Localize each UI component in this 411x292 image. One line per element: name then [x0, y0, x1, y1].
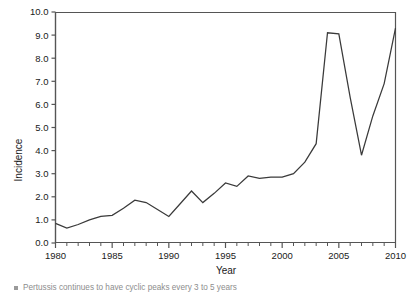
plot-frame — [56, 12, 397, 243]
y-axis-tick-labels: 0.01.02.03.04.05.06.07.08.09.010.0 — [30, 6, 49, 248]
x-tick-label: 1995 — [215, 250, 236, 261]
caption-label: Pertussis continues to have cyclic peaks… — [23, 283, 237, 292]
bullet-icon — [14, 286, 18, 290]
x-tick-label: 1980 — [45, 250, 66, 261]
y-tick-label: 7.0 — [35, 76, 48, 87]
y-tick-label: 8.0 — [35, 53, 48, 64]
y-tick-label: 1.0 — [35, 214, 48, 225]
figure-caption: Pertussis continues to have cyclic peaks… — [14, 283, 237, 292]
x-axis-major-ticks — [56, 243, 396, 248]
x-axis-title: Year — [216, 265, 237, 276]
x-tick-label: 1985 — [102, 250, 123, 261]
y-tick-label: 10.0 — [30, 6, 49, 17]
y-tick-label: 9.0 — [35, 30, 48, 41]
y-tick-label: 0.0 — [35, 237, 48, 248]
x-tick-label: 2005 — [328, 250, 349, 261]
y-tick-label: 4.0 — [35, 145, 48, 156]
x-axis-tick-labels: 1980198519901995200020052010 — [45, 250, 406, 261]
x-tick-label: 2010 — [385, 250, 406, 261]
y-tick-label: 3.0 — [35, 168, 48, 179]
x-tick-label: 1990 — [158, 250, 179, 261]
x-tick-label: 2000 — [272, 250, 293, 261]
y-axis-title: Incidence — [13, 138, 24, 181]
incidence-line-chart: 0.01.02.03.04.05.06.07.08.09.010.0 19801… — [0, 0, 411, 292]
chart-figure: 0.01.02.03.04.05.06.07.08.09.010.0 19801… — [0, 0, 411, 292]
y-tick-label: 5.0 — [35, 122, 48, 133]
y-tick-label: 6.0 — [35, 99, 48, 110]
y-tick-label: 2.0 — [35, 191, 48, 202]
incidence-data-line — [56, 28, 396, 228]
